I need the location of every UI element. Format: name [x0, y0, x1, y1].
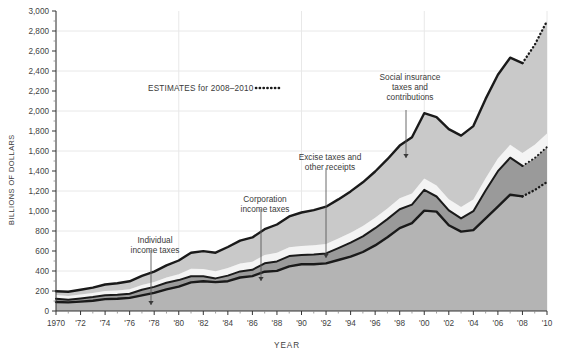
x-tick-label: '92	[321, 319, 332, 328]
x-tick-label: '82	[198, 319, 209, 328]
y-tick-label: 2,200	[29, 87, 50, 96]
x-tick-label: 1970	[47, 319, 66, 328]
y-tick-label: 600	[35, 247, 49, 256]
y-tick-label: 1,200	[29, 187, 50, 196]
y-tick-label: 1,000	[29, 207, 50, 216]
annotation-label: other receipts	[305, 162, 355, 172]
x-tick-label: '84	[223, 319, 234, 328]
x-tick-label: '72	[75, 319, 86, 328]
x-tick-label: '94	[345, 319, 356, 328]
annotation-label: income taxes	[131, 245, 180, 255]
x-tick-label: '10	[542, 319, 553, 328]
y-tick-label: 0	[44, 307, 49, 316]
x-tick-label: '88	[272, 319, 283, 328]
x-tick-label: '78	[149, 319, 160, 328]
x-tick-label: '98	[394, 319, 405, 328]
y-tick-label: 3,000	[29, 7, 50, 16]
federal-receipts-area-chart: 02004006008001,0001,2001,4001,6001,8002,…	[0, 0, 562, 354]
annotation-label: contributions	[386, 92, 433, 102]
annotation-label: taxes and	[392, 82, 428, 92]
x-tick-label: '00	[419, 319, 430, 328]
x-tick-label: '86	[247, 319, 258, 328]
x-tick-label: '08	[517, 319, 528, 328]
x-tick-label: '02	[443, 319, 454, 328]
annotation-label: Excise taxes and	[299, 152, 362, 162]
x-tick-label: '06	[493, 319, 504, 328]
annotation-label: Individual	[137, 235, 172, 245]
y-tick-label: 400	[35, 267, 49, 276]
y-tick-label: 200	[35, 287, 49, 296]
y-tick-label: 1,800	[29, 127, 50, 136]
y-tick-label: 1,400	[29, 167, 50, 176]
y-tick-label: 800	[35, 227, 49, 236]
x-tick-label: '74	[100, 319, 111, 328]
x-tick-label: '76	[124, 319, 135, 328]
x-tick-label: '96	[370, 319, 381, 328]
annotation-label: Social insurance	[380, 72, 441, 82]
y-tick-label: 2,400	[29, 67, 50, 76]
x-tick-label: '04	[468, 319, 479, 328]
y-tick-label: 2,800	[29, 27, 50, 36]
estimates-label: ESTIMATES for 2008–2010	[148, 84, 254, 93]
x-tick-label: '90	[296, 319, 307, 328]
annotation-label: income taxes	[241, 204, 290, 214]
y-tick-label: 2,600	[29, 47, 50, 56]
x-axis-title: YEAR	[274, 341, 300, 350]
annotation-label: Corporation	[243, 194, 287, 204]
y-axis-title: BILLIONS OF DOLLARS	[7, 134, 16, 225]
y-tick-label: 1,600	[29, 147, 50, 156]
chart-root: 02004006008001,0001,2001,4001,6001,8002,…	[0, 0, 562, 354]
x-tick-label: '80	[173, 319, 184, 328]
y-tick-label: 2,000	[29, 107, 50, 116]
